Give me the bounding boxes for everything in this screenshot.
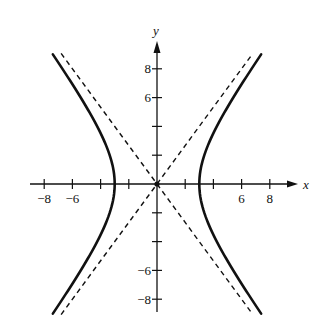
y-tick-label: −6 <box>137 263 151 278</box>
x-axis-arrow-icon <box>287 181 298 188</box>
x-tick-label: −8 <box>37 191 51 206</box>
x-tick-label: −6 <box>65 191 79 206</box>
y-axis-label: y <box>151 23 159 38</box>
y-tick-label: −8 <box>137 292 151 307</box>
x-axis-label: x <box>302 177 309 192</box>
x-tick-label: 8 <box>267 191 274 206</box>
y-axis-arrow-icon <box>154 41 161 53</box>
hyperbola-plot: −8−668−8−668 x y <box>0 0 319 325</box>
y-tick-label: 6 <box>145 90 152 105</box>
y-tick-label: 8 <box>145 61 152 76</box>
x-tick-label: 6 <box>238 191 245 206</box>
